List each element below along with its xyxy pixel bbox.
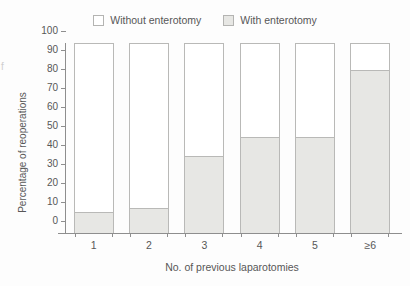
y-axis-tick: 50 [47,120,66,132]
y-axis-tick-label: 40 [47,140,58,150]
legend-label-without-enterotomy: Without enterotomy [110,15,201,26]
x-axis-tick-mark [241,233,242,237]
y-axis-tick-label: 30 [47,159,58,169]
bar-segment-with-enterotomy [75,212,113,233]
x-axis-tick-mark [296,233,297,237]
y-axis-tick-label: 60 [47,102,58,112]
edge-artifact-glyph: f [1,62,4,72]
y-axis-tick-label: 10 [47,197,58,207]
x-axis-tick-mark [278,233,279,237]
x-axis-tick-label: 4 [232,240,287,251]
figure-canvas: Without enterotomy With enterotomy f Per… [0,0,410,286]
y-axis-tick-label: 80 [47,64,58,74]
x-axis-tick-label: 5 [287,240,342,251]
x-axis-tick-mark [130,233,131,237]
y-axis-tick-label: 70 [47,83,58,93]
x-axis-tick-mark [333,233,334,237]
legend-label-with-enterotomy: With enterotomy [240,15,316,26]
stacked-bar[interactable] [129,43,169,233]
stacked-bar[interactable] [74,43,114,233]
bar-segment-with-enterotomy [241,137,279,233]
y-axis-tick-label: 50 [47,121,58,131]
stacked-bar[interactable] [240,43,280,233]
y-axis-tick: 10 [47,196,66,208]
y-axis-tick: 40 [47,139,66,151]
bar-slot [177,43,232,233]
x-axis-tick-label: 2 [121,240,176,251]
y-axis-tick-label: 20 [47,178,58,188]
y-axis-tick: 30 [47,158,66,170]
x-axis-tick-label: 3 [177,240,232,251]
x-axis-tick-mark [185,233,186,237]
y-axis-tick: 100 [41,25,66,37]
white-swatch-icon [93,15,104,26]
bar-slot [343,43,398,233]
plot-area: 0102030405060708090100 [66,43,398,233]
bar-segment-with-enterotomy [296,137,334,233]
x-axis-tick-label: ≥6 [343,240,398,251]
bar-slot [66,43,121,233]
stacked-bar[interactable] [184,43,224,233]
y-axis-tick-label: 90 [47,45,58,55]
bar-slot [121,43,176,233]
x-axis-tick-mark [167,233,168,237]
y-axis-title: Percentage of reoperations [16,57,30,248]
bar-slot [232,43,287,233]
y-axis-tick: 0 [52,215,66,227]
y-axis-tick: 20 [47,177,66,189]
x-axis-tick-mark [388,233,389,237]
legend-item-without-enterotomy: Without enterotomy [93,15,201,26]
stacked-bar[interactable] [295,43,335,233]
gray-swatch-icon [223,15,234,26]
y-axis-tick: 60 [47,101,66,113]
bar-slot [287,43,342,233]
bar-segment-with-enterotomy [351,70,389,233]
y-axis-tick-mark [61,31,66,32]
x-axis-ticks: 12345≥6 [66,240,398,251]
x-axis-tick-mark [222,233,223,237]
x-axis-tick-label: 1 [66,240,121,251]
bar-group [66,43,398,233]
legend-item-with-enterotomy: With enterotomy [223,15,316,26]
bar-segment-with-enterotomy [185,156,223,233]
x-axis-tick-mark [351,233,352,237]
x-axis-tick-mark [112,233,113,237]
y-axis-tick-label: 0 [52,216,58,226]
y-axis-tick: 70 [47,82,66,94]
y-axis-tick: 90 [47,44,66,56]
bar-segment-with-enterotomy [130,208,168,233]
x-axis-tick-mark [75,233,76,237]
y-axis-tick-label: 100 [41,26,58,36]
y-axis-tick: 80 [47,63,66,75]
x-axis-title: No. of previous laparotomies [66,262,398,273]
stacked-bar[interactable] [350,43,390,233]
